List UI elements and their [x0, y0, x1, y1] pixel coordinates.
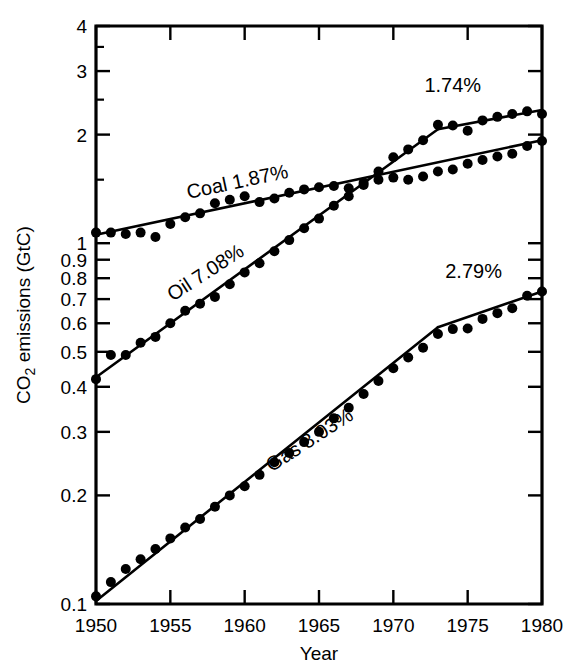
- data-point-coal: [255, 197, 265, 207]
- y-tick-label: 0.7: [61, 289, 87, 310]
- data-point-gas: [492, 308, 502, 318]
- data-point-oil: [478, 115, 488, 125]
- data-point-oil: [210, 292, 220, 302]
- data-point-coal: [269, 194, 279, 204]
- data-point-coal: [418, 172, 428, 182]
- data-point-gas: [136, 554, 146, 564]
- data-point-coal: [195, 208, 205, 218]
- x-tick-label: 1970: [372, 615, 414, 636]
- data-point-oil: [121, 350, 131, 360]
- data-point-oil: [359, 178, 369, 188]
- data-point-oil: [165, 318, 175, 328]
- data-point-gas: [537, 286, 547, 296]
- data-point-coal: [91, 228, 101, 238]
- data-point-gas: [433, 329, 443, 339]
- curve-annotations: Coal 1.87%Oil 7.08%1.74%Gas 8.03%2.79%: [163, 74, 502, 476]
- data-point-oil: [136, 338, 146, 348]
- data-point-oil: [329, 201, 339, 211]
- data-point-coal: [150, 232, 160, 242]
- data-point-gas: [448, 324, 458, 334]
- y-tick-label: 2: [76, 125, 87, 146]
- y-axis-title-group: CO2 emissions (GtC): [13, 226, 38, 404]
- data-point-gas: [121, 564, 131, 574]
- data-point-oil: [373, 167, 383, 177]
- x-tick-label: 1960: [224, 615, 266, 636]
- y-tick-label: 1: [76, 233, 87, 254]
- data-point-oil: [507, 109, 517, 119]
- data-point-coal: [165, 219, 175, 229]
- data-point-gas: [180, 522, 190, 532]
- data-point-coal: [478, 155, 488, 165]
- data-point-coal: [388, 173, 398, 183]
- data-point-gas: [91, 591, 101, 601]
- data-point-oil: [284, 235, 294, 245]
- x-tick-label: 1955: [149, 615, 191, 636]
- data-point-coal: [240, 191, 250, 201]
- data-point-gas: [195, 514, 205, 524]
- data-point-oil: [150, 332, 160, 342]
- data-point-oil: [180, 306, 190, 316]
- data-point-gas: [150, 544, 160, 554]
- y-axis-tick-labels: 0.10.20.30.40.50.60.70.80.91234: [61, 16, 88, 615]
- data-point-gas: [478, 314, 488, 324]
- y-tick-label: 0.4: [61, 377, 88, 398]
- data-point-gas: [210, 502, 220, 512]
- annotation-oil-rate-early: Oil 7.08%: [163, 239, 248, 305]
- data-point-oil: [344, 191, 354, 201]
- x-tick-label: 1965: [298, 615, 340, 636]
- data-point-coal: [433, 167, 443, 177]
- co2-emissions-log-chart: 0.10.20.30.40.50.60.70.80.91234 19501955…: [0, 0, 577, 672]
- data-point-gas: [240, 481, 250, 491]
- data-point-oil: [91, 374, 101, 384]
- data-point-oil: [195, 299, 205, 309]
- data-point-oil: [537, 109, 547, 119]
- data-point-oil: [463, 126, 473, 136]
- data-point-coal: [507, 149, 517, 159]
- data-point-gas: [359, 389, 369, 399]
- x-tick-label: 1980: [521, 615, 563, 636]
- y-tick-label: 0.3: [61, 422, 87, 443]
- data-point-oil: [240, 267, 250, 277]
- data-point-coal: [463, 159, 473, 169]
- y-tick-label: 0.1: [61, 594, 87, 615]
- y-tick-label: 0.2: [61, 485, 87, 506]
- data-point-oil: [492, 112, 502, 122]
- data-point-oil: [269, 246, 279, 256]
- data-point-gas: [255, 470, 265, 480]
- data-point-oil: [255, 258, 265, 268]
- x-axis-title: Year: [300, 643, 339, 664]
- data-point-oil: [388, 152, 398, 162]
- data-point-coal: [314, 182, 324, 192]
- data-point-oil: [314, 214, 324, 224]
- data-point-oil: [106, 350, 116, 360]
- data-point-gas: [388, 363, 398, 373]
- series-data-points: [91, 106, 547, 601]
- data-point-gas: [507, 303, 517, 313]
- data-point-coal: [121, 229, 131, 239]
- annotation-oil-rate-late: 1.74%: [424, 74, 481, 96]
- y-tick-label: 0.5: [61, 342, 87, 363]
- data-point-coal: [448, 165, 458, 175]
- data-point-coal: [492, 151, 502, 161]
- data-point-coal: [106, 228, 116, 238]
- data-point-gas: [463, 324, 473, 334]
- y-tick-label: 0.8: [61, 268, 87, 289]
- data-point-oil: [225, 279, 235, 289]
- data-point-coal: [225, 195, 235, 205]
- y-tick-label: 4: [76, 16, 87, 37]
- x-tick-label: 1950: [75, 615, 117, 636]
- data-point-gas: [373, 376, 383, 386]
- data-point-gas: [225, 490, 235, 500]
- y-tick-label: 3: [76, 61, 87, 82]
- data-point-gas: [106, 577, 116, 587]
- x-axis-tick-labels: 1950195519601965197019751980: [75, 615, 563, 636]
- data-point-coal: [210, 198, 220, 208]
- data-point-coal: [537, 136, 547, 146]
- data-point-oil: [448, 120, 458, 130]
- data-point-coal: [299, 184, 309, 194]
- data-point-coal: [284, 188, 294, 198]
- annotation-gas-rate-late: 2.79%: [445, 260, 502, 282]
- data-point-oil: [418, 135, 428, 145]
- data-point-gas: [418, 343, 428, 353]
- data-point-oil: [299, 223, 309, 233]
